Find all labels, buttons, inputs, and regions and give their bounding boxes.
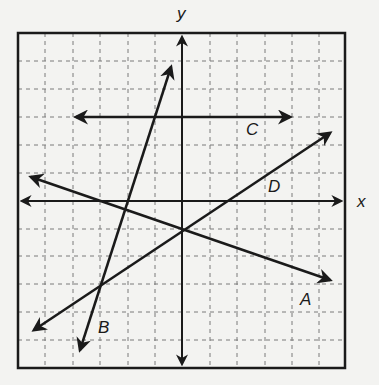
line-b-label: B (98, 318, 109, 337)
line-c-label: C (246, 120, 259, 139)
line-d-label: D (268, 177, 280, 196)
coordinate-plane: y x A B C D (0, 0, 379, 385)
x-axis-label: x (356, 192, 366, 211)
line-b (80, 67, 171, 350)
line-a-label: A (299, 290, 311, 309)
y-axis-label: y (176, 4, 187, 23)
